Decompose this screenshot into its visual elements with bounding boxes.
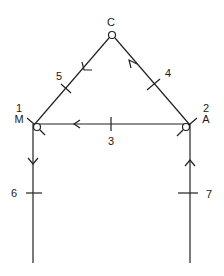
- node-a-spoke-upper: [190, 118, 197, 124]
- edge-4-ac: [115, 38, 190, 125]
- flow-diagram: C 1 M 2 A 3 4 5 6 7: [0, 0, 224, 276]
- edge-5-cm: [34, 38, 109, 125]
- arrow-up-left-icon: [129, 60, 137, 68]
- edge-label-3: 3: [108, 135, 114, 147]
- edge-label-5: 5: [56, 70, 62, 82]
- node-m-label: M: [14, 113, 23, 125]
- node-m-circle: [34, 124, 41, 131]
- node-a-circle: [183, 124, 190, 131]
- node-m-spoke-lower: [40, 130, 45, 135]
- edge-label-7: 7: [206, 188, 212, 200]
- node-c-circle: [109, 32, 116, 39]
- edge-label-4: 4: [165, 67, 171, 79]
- node-a-label: A: [202, 113, 210, 125]
- node-a-spoke-lower: [177, 130, 183, 136]
- node-m-spoke-upper: [27, 118, 34, 124]
- edge-label-6: 6: [11, 187, 17, 199]
- node-c-label: C: [107, 16, 115, 28]
